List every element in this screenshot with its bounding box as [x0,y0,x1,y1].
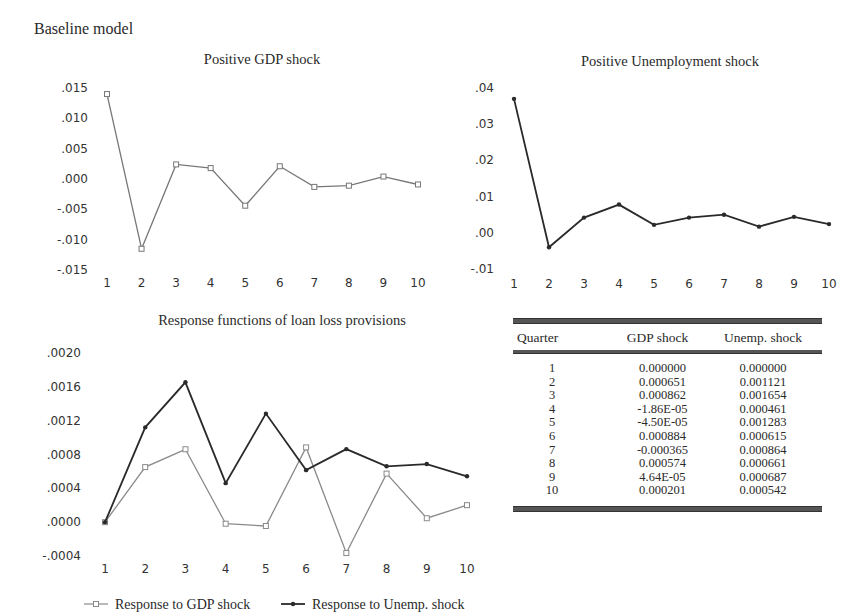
series-line-b [105,382,467,522]
table-row: 5-4.50E-050.001283 [513,416,822,430]
chart-gdp-shock: Positive GDP shock.015.010.005.000-.005-… [57,51,426,290]
data-point [208,166,213,171]
y-tick-label: .0020 [47,346,81,360]
chart-loan-loss-provisions: Response functions of loan loss provisio… [42,312,474,576]
data-point [425,462,429,466]
x-tick-label: 2 [545,277,553,291]
data-point [416,182,421,187]
table-row: 20.0006510.001121 [513,376,822,390]
y-tick-label: -.005 [57,202,88,216]
series-line-a [107,94,418,249]
x-tick-label: 4 [207,276,215,290]
data-point [304,445,309,450]
x-tick-label: 6 [276,276,284,290]
y-tick-label: .005 [61,142,88,156]
data-point [277,164,282,169]
column-header-quarter: Quarter [513,324,611,354]
data-point [139,246,144,251]
x-tick-label: 5 [262,562,270,576]
y-tick-label: -.01 [471,262,494,276]
data-point [465,474,469,478]
cell-gdp-shock-value: 0.000574 [611,457,704,471]
x-tick-label: 7 [343,562,351,576]
x-tick-label: 8 [755,277,763,291]
cell-unemp-shock-value: 0.000661 [704,457,822,471]
cell-unemp-shock-value: 0.000542 [704,484,822,506]
data-point [757,224,761,228]
cell-quarter: 5 [513,416,611,430]
y-tick-label: -.015 [57,263,88,277]
table-row: 60.0008840.000615 [513,430,822,444]
legend-label-gdp: Response to GDP shock [115,597,250,612]
table-row: 30.0008620.001654 [513,389,822,403]
cell-gdp-shock-value: 4.64E-05 [611,471,704,485]
x-tick-label: 10 [821,277,836,291]
x-tick-label: 3 [172,276,180,290]
x-tick-label: 6 [685,277,693,291]
data-point [722,213,726,217]
data-point [304,468,308,472]
chart-title: Response functions of loan loss provisio… [158,312,406,328]
y-tick-label: -.010 [57,233,88,247]
data-point [243,203,248,208]
y-tick-label: .00 [475,226,494,240]
cell-unemp-shock-value: 0.001654 [704,389,822,403]
data-point [143,465,148,470]
y-tick-label: .010 [61,111,88,125]
y-tick-label: .01 [475,190,494,204]
data-point [223,521,228,526]
response-table: Quarter GDP shock Unemp. shock 10.000000… [513,318,822,512]
data-point [344,447,348,451]
x-tick-label: 7 [720,277,728,291]
table-row: 10.0000000.000000 [513,354,822,376]
cell-unemp-shock-value: 0.000864 [704,444,822,458]
data-point [547,245,551,249]
data-point [381,174,386,179]
legend-label-unemp: Response to Unemp. shock [312,597,464,612]
cell-quarter: 2 [513,376,611,390]
y-tick-label: .0012 [47,414,81,428]
data-point [687,215,691,219]
x-tick-label: 8 [383,562,391,576]
y-tick-label: .0008 [47,448,81,462]
legend-marker-unemp-icon [291,602,295,606]
cell-quarter: 4 [513,403,611,417]
data-point [792,215,796,219]
data-point [103,520,107,524]
x-tick-label: 9 [380,276,388,290]
table-row: 100.0002010.000542 [513,484,822,506]
cell-gdp-shock-value: 0.000201 [611,484,704,506]
cell-gdp-shock-value: 0.000884 [611,430,704,444]
cell-quarter: 9 [513,471,611,485]
data-point [384,471,389,476]
y-tick-label: .02 [475,153,494,167]
data-point [264,411,268,415]
x-tick-label: 1 [101,562,109,576]
y-tick-label: .0016 [47,380,81,394]
series-line-a [105,447,467,553]
x-tick-label: 10 [410,276,425,290]
cell-unemp-shock-value: 0.001283 [704,416,822,430]
y-tick-label: -.0004 [42,549,81,563]
data-point [143,425,147,429]
data-point [105,92,110,97]
column-header-gdp-shock: GDP shock [611,324,704,354]
table-header-row: Quarter GDP shock Unemp. shock [513,324,822,354]
chart-title: Positive Unemployment shock [581,53,760,69]
x-tick-label: 4 [615,277,623,291]
x-tick-label: 8 [345,276,353,290]
data-point [384,464,388,468]
chart-unemployment-shock: Positive Unemployment shock.04.03.02.01.… [471,53,837,291]
x-tick-label: 2 [138,276,146,290]
x-tick-label: 10 [459,562,474,576]
y-tick-label: .000 [61,172,88,186]
table-row: 94.64E-050.000687 [513,471,822,485]
data-point [312,184,317,189]
data-point [223,481,227,485]
cell-gdp-shock-value: -1.86E-05 [611,403,704,417]
x-tick-label: 3 [182,562,190,576]
y-tick-label: .015 [61,81,88,95]
data-point [424,516,429,521]
cell-quarter: 7 [513,444,611,458]
data-point [346,183,351,188]
